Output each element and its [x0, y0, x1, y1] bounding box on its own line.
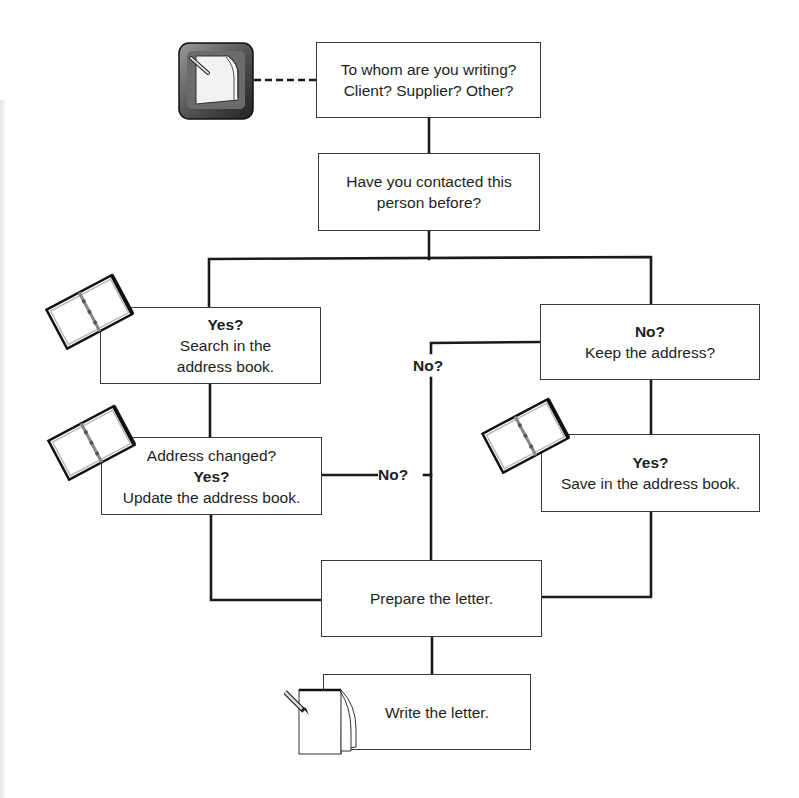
node-yes-search-line1: Search in the — [180, 335, 271, 356]
node-yes-save-line1: Save in the address book. — [561, 473, 740, 494]
notepad-pencil-icon — [284, 685, 360, 761]
node-contacted-question: Have you contacted this person before? — [318, 153, 540, 231]
node-address-changed-line2: Update the address book. — [123, 487, 301, 508]
address-book-icon — [46, 403, 136, 481]
keyboard-key-document-pencil-icon — [178, 42, 254, 120]
node-address-changed-heading: Yes? — [193, 466, 229, 487]
node-prepare-line1: Prepare the letter. — [370, 588, 493, 609]
edge-label-changed-no: No? — [378, 465, 408, 485]
node-yes-search-heading: Yes? — [207, 314, 243, 335]
node-yes-save: Yes? Save in the address book. — [541, 434, 760, 512]
node-start-question: To whom are you writing? Client? Supplie… — [316, 42, 541, 118]
address-book-icon — [44, 272, 134, 350]
node-yes-search-line2: address book. — [177, 356, 274, 377]
node-address-changed-line1: Address changed? — [147, 445, 276, 466]
node-yes-save-heading: Yes? — [632, 452, 668, 473]
edge-label-keep-no: No? — [412, 356, 444, 376]
node-no-keep-heading: No? — [635, 321, 665, 342]
node-prepare-letter: Prepare the letter. — [321, 560, 542, 637]
node-start-line2: Client? Supplier? Other? — [344, 80, 514, 101]
node-start-line1: To whom are you writing? — [341, 59, 517, 80]
node-contacted-line1: Have you contacted this — [346, 171, 511, 192]
node-contacted-line2: person before? — [377, 192, 481, 213]
node-write-line1: Write the letter. — [385, 702, 489, 723]
node-no-keep: No? Keep the address? — [540, 304, 760, 380]
node-no-keep-line1: Keep the address? — [585, 342, 715, 363]
address-book-icon — [480, 396, 570, 474]
